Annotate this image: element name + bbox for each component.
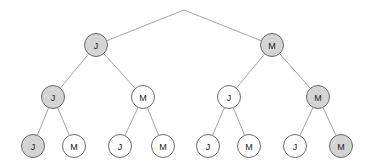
tree-edge <box>236 54 264 88</box>
tree-edge <box>104 54 136 89</box>
tree-node-label: J <box>206 142 211 152</box>
tree-edge <box>184 10 261 41</box>
tree-node-label: M <box>268 41 276 51</box>
tree-node[interactable]: J <box>22 135 45 158</box>
tree-node[interactable]: J <box>197 135 220 158</box>
tree-node[interactable]: M <box>307 86 330 109</box>
tree-node-label: J <box>293 142 298 152</box>
tree-node[interactable]: M <box>63 135 86 158</box>
tree-edge <box>107 10 184 41</box>
tree-node-label: M <box>337 142 345 152</box>
tree-node-label: M <box>159 142 167 152</box>
tree-node-label: J <box>94 41 99 51</box>
tree-node[interactable]: J <box>218 86 241 109</box>
binary-tree-diagram: JMJMJMJMJMJMJM <box>0 0 369 168</box>
tree-node[interactable]: J <box>284 135 307 158</box>
tree-edge <box>37 108 48 136</box>
tree-nodes-group: JMJMJMJMJMJMJM <box>22 34 353 158</box>
tree-node-label: J <box>31 142 36 152</box>
tree-node-label: M <box>245 142 253 152</box>
tree-node-label: J <box>51 93 56 103</box>
tree-edge <box>125 107 138 135</box>
tree-node-label: J <box>227 93 232 103</box>
tree-node[interactable]: M <box>261 34 284 57</box>
tree-canvas: JMJMJMJMJMJMJM <box>0 0 369 168</box>
tree-edge <box>213 108 225 136</box>
tree-edges-group <box>37 10 336 136</box>
tree-edge <box>58 108 70 136</box>
tree-edge <box>233 108 244 136</box>
tree-node[interactable]: J <box>109 135 132 158</box>
tree-edge <box>280 54 311 89</box>
tree-node-label: M <box>70 142 78 152</box>
tree-node-label: M <box>314 93 322 103</box>
tree-edge <box>147 108 158 136</box>
tree-node[interactable]: M <box>152 135 175 158</box>
tree-node-label: J <box>118 142 123 152</box>
tree-node-label: M <box>139 93 147 103</box>
tree-node[interactable]: M <box>132 86 155 109</box>
tree-edge <box>300 107 313 135</box>
tree-node[interactable]: M <box>330 135 353 158</box>
tree-node[interactable]: J <box>85 34 108 57</box>
tree-node[interactable]: M <box>238 135 261 158</box>
tree-edge <box>323 107 336 135</box>
tree-edge <box>60 54 88 88</box>
tree-node[interactable]: J <box>42 86 65 109</box>
